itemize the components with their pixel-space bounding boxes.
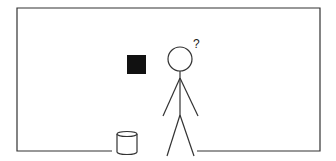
figure-right-arm <box>180 78 198 116</box>
stick-figure <box>163 47 198 156</box>
question-mark: ? <box>193 37 200 51</box>
black-square <box>127 55 146 74</box>
figure-right-leg <box>180 115 194 156</box>
bucket <box>117 132 137 155</box>
room-outline-left <box>17 8 320 151</box>
bucket-rim <box>117 132 137 137</box>
figure-left-leg <box>167 115 180 156</box>
figure-left-arm <box>163 78 180 116</box>
diagram-canvas: ? <box>0 0 336 161</box>
figure-head <box>168 47 192 71</box>
